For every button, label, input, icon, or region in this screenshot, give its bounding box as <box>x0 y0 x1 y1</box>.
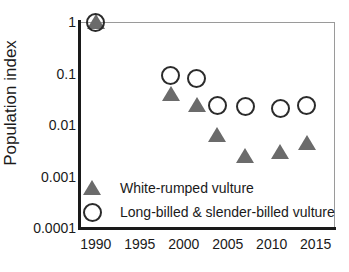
data-point-triangle <box>271 144 289 159</box>
data-point-triangle <box>298 135 316 150</box>
open-circle-icon <box>83 203 102 222</box>
data-point-triangle <box>208 127 226 142</box>
data-point-triangle <box>236 148 254 163</box>
data-point-triangle <box>188 97 206 112</box>
data-point-circle <box>86 13 105 32</box>
y-axis-tick-label: 0.0001 <box>33 220 76 236</box>
chart-legend: White-rumped vulture Long-billed & slend… <box>92 176 332 224</box>
y-axis-tick-label: 1 <box>68 14 76 30</box>
y-axis-tick-label: 0.001 <box>41 169 76 185</box>
x-axis-line <box>78 227 336 230</box>
y-axis-title: Population index <box>0 0 22 206</box>
y-axis-tick-label: 0.01 <box>49 117 76 133</box>
filled-triangle-icon <box>83 180 101 195</box>
y-axis-tick-label: 0.1 <box>57 66 76 82</box>
chart-figure: Population index 10.10.010.0010.0001 199… <box>0 0 349 272</box>
data-point-circle <box>236 97 255 116</box>
legend-entry-white-rumped-vulture: White-rumped vulture <box>92 176 332 200</box>
legend-entry-long-billed-slender-billed-vulture: Long-billed & slender-billed vulture <box>92 200 332 224</box>
legend-label: Long-billed & slender-billed vulture <box>120 200 335 224</box>
y-axis-line <box>78 20 81 230</box>
data-point-circle <box>208 96 227 115</box>
data-point-triangle <box>162 86 180 101</box>
x-axis-tick-label: 2015 <box>286 236 346 252</box>
data-point-circle <box>271 99 290 118</box>
legend-label: White-rumped vulture <box>120 176 254 200</box>
